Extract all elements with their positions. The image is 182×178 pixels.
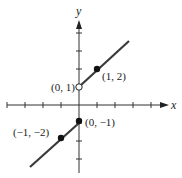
label-neg1-neg2: (−1, −2) [13, 126, 50, 139]
label-0-neg1: (0, −1) [85, 116, 115, 129]
coordinate-plane: x y (0, 1) (1, 2) [0, 0, 182, 178]
point-neg1-neg2 [58, 135, 64, 141]
x-axis-label: x [170, 98, 177, 112]
y-axis-label: y [75, 4, 82, 18]
graph-figure: x y (0, 1) (1, 2) [0, 0, 182, 178]
label-0-1: (0, 1) [51, 81, 75, 94]
point-1-2 [94, 66, 100, 72]
point-0-neg1 [76, 118, 82, 124]
y-axis-arrow-icon [76, 20, 82, 29]
x-axis: x [7, 98, 177, 112]
open-point-0-1 [76, 84, 82, 90]
x-axis-arrow-icon [160, 102, 169, 108]
label-1-2: (1, 2) [102, 70, 126, 83]
